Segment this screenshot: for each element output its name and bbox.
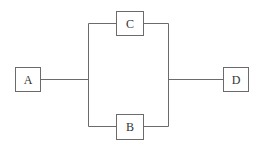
node-b-label: B (126, 120, 134, 134)
block-diagram: A C B D (0, 0, 263, 148)
node-c-label: C (126, 17, 134, 31)
node-d: D (224, 68, 249, 92)
node-a-label: A (24, 73, 33, 87)
node-d-label: D (232, 73, 241, 87)
node-a: A (16, 68, 41, 92)
node-b: B (117, 115, 144, 140)
node-c: C (117, 12, 144, 36)
